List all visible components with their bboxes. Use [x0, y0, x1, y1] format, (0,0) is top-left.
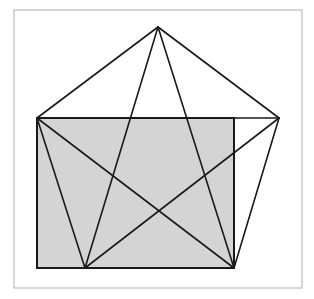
pentagon-edge	[158, 27, 279, 118]
pentagon-edge	[37, 27, 158, 118]
pentagon-edge	[234, 118, 279, 268]
pentagon-diagram	[0, 0, 314, 299]
